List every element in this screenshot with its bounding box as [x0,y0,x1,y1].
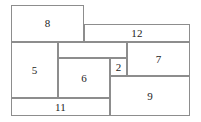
tile-label: 2 [116,62,122,73]
tile-9: 9 [110,76,190,116]
tile-label: 11 [55,102,66,113]
tile-2: 2 [110,58,127,76]
tile-5: 5 [11,42,58,98]
tile-8: 8 [11,5,84,42]
tile-6: 6 [58,58,110,98]
tile-11: 11 [11,98,110,116]
tile-label: 5 [32,65,38,76]
tile-label: 6 [81,73,87,84]
tile-unlabeled [58,42,127,58]
squared-rectangle-diagram: 8125762911 [0,0,201,122]
tile-label: 8 [45,18,51,29]
tile-label: 7 [156,54,162,65]
tile-label: 9 [147,91,153,102]
tile-label: 12 [131,28,142,39]
tile-12: 12 [84,24,190,42]
tile-7: 7 [127,42,190,76]
